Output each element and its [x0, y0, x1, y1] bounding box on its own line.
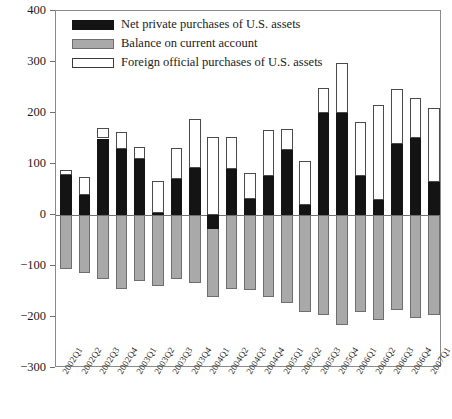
bar-balance-current-account: [134, 215, 146, 281]
bar-foreign-official-purchases: [391, 89, 403, 144]
bar-net-private-purchases: [60, 175, 72, 215]
legend-swatch-gray: [72, 39, 114, 49]
bar-foreign-official-purchases: [410, 98, 422, 138]
legend-item: Foreign official purchases of U.S. asset…: [72, 54, 322, 71]
y-axis-tick-mark: [50, 265, 55, 266]
bar-balance-current-account: [391, 215, 403, 310]
y-axis-tick-label: 100: [0, 157, 46, 170]
y-axis-tick-label: 200: [0, 106, 46, 119]
bar-balance-current-account: [244, 215, 256, 290]
bar-foreign-official-purchases: [281, 129, 293, 149]
bar-net-private-purchases: [299, 205, 311, 215]
y-axis-tick-label: −300: [0, 361, 46, 374]
bar-foreign-official-purchases: [336, 63, 348, 113]
bar-balance-current-account: [263, 215, 275, 297]
bar-balance-current-account: [79, 215, 91, 273]
bar-net-private-purchases: [189, 168, 201, 215]
y-axis-tick-label: 400: [0, 4, 46, 17]
bar-balance-current-account: [226, 215, 238, 289]
bar-net-private-purchases: [171, 179, 183, 215]
bar-group: [373, 11, 385, 366]
bar-balance-current-account: [318, 215, 330, 315]
bar-net-private-purchases: [244, 199, 256, 215]
bar-foreign-official-purchases: [207, 137, 219, 215]
legend-swatch-white: [72, 58, 114, 68]
bar-foreign-official-purchases: [428, 108, 440, 182]
bar-balance-current-account: [355, 215, 367, 312]
bar-balance-current-account: [299, 215, 311, 312]
legend-swatch-black: [72, 20, 114, 30]
legend-item: Net private purchases of U.S. assets: [72, 16, 322, 33]
bar-balance-current-account: [116, 215, 128, 289]
bar-net-private-purchases: [152, 213, 164, 215]
bar-net-private-purchases: [410, 138, 422, 215]
legend-item: Balance on current account: [72, 35, 322, 52]
y-axis-tick-label: 0: [0, 208, 46, 221]
bar-group: [391, 11, 403, 366]
y-axis-tick-mark: [50, 316, 55, 317]
legend: Net private purchases of U.S. assetsBala…: [72, 16, 322, 73]
y-axis-tick-mark: [50, 163, 55, 164]
bar-balance-current-account: [97, 215, 109, 279]
bar-net-private-purchases: [97, 139, 109, 216]
y-axis-tick-label: −200: [0, 310, 46, 323]
bar-foreign-official-purchases: [134, 147, 146, 159]
bar-foreign-official-purchases: [373, 105, 385, 199]
bar-foreign-official-purchases: [79, 177, 91, 195]
bar-group: [410, 11, 422, 366]
y-axis-tick-mark: [50, 367, 55, 368]
bar-foreign-official-purchases: [299, 161, 311, 204]
bar-balance-current-account: [410, 215, 422, 318]
legend-label: Balance on current account: [121, 36, 257, 51]
bar-balance-current-account: [428, 215, 440, 315]
bar-balance-current-account: [60, 215, 72, 269]
bar-group: [60, 11, 72, 366]
legend-label: Net private purchases of U.S. assets: [121, 17, 300, 32]
bar-foreign-official-purchases: [171, 148, 183, 180]
bar-foreign-official-purchases: [152, 181, 164, 213]
bar-foreign-official-purchases: [263, 130, 275, 176]
bar-net-private-purchases: [116, 149, 128, 215]
bar-group: [355, 11, 367, 366]
bar-net-private-purchases: [226, 169, 238, 215]
bar-net-private-purchases: [336, 113, 348, 215]
bar-group: [336, 11, 348, 366]
bar-net-private-purchases: [355, 176, 367, 215]
bar-balance-current-account: [189, 215, 201, 283]
bar-balance-current-account: [281, 215, 293, 303]
bar-foreign-official-purchases: [355, 122, 367, 177]
y-axis-tick-mark: [50, 214, 55, 215]
bar-foreign-official-purchases: [244, 173, 256, 200]
bar-foreign-official-purchases: [116, 132, 128, 148]
y-axis-tick-label: 300: [0, 55, 46, 68]
y-axis: 4003002001000−100−200−300: [0, 10, 55, 367]
bar-foreign-official-purchases: [97, 128, 109, 138]
bar-net-private-purchases: [373, 200, 385, 215]
bar-net-private-purchases: [134, 159, 146, 215]
bar-balance-current-account: [152, 215, 164, 286]
bar-net-private-purchases: [281, 150, 293, 215]
bar-net-private-purchases: [428, 182, 440, 215]
bar-balance-current-account: [171, 215, 183, 279]
bar-balance-current-account: [336, 215, 348, 325]
y-axis-tick-mark: [50, 61, 55, 62]
bar-group: [428, 11, 440, 366]
bar-net-private-purchases: [263, 176, 275, 215]
bar-foreign-official-purchases: [189, 119, 201, 167]
bar-net-private-purchases: [207, 215, 219, 229]
bar-foreign-official-purchases: [226, 137, 238, 169]
bar-foreign-official-purchases: [318, 88, 330, 114]
y-axis-tick-mark: [50, 10, 55, 11]
bar-net-private-purchases: [79, 195, 91, 215]
bar-net-private-purchases: [391, 144, 403, 215]
y-axis-tick-label: −100: [0, 259, 46, 272]
legend-label: Foreign official purchases of U.S. asset…: [121, 55, 322, 70]
bar-balance-current-account: [373, 215, 385, 320]
y-axis-tick-mark: [50, 112, 55, 113]
bar-net-private-purchases: [318, 113, 330, 215]
